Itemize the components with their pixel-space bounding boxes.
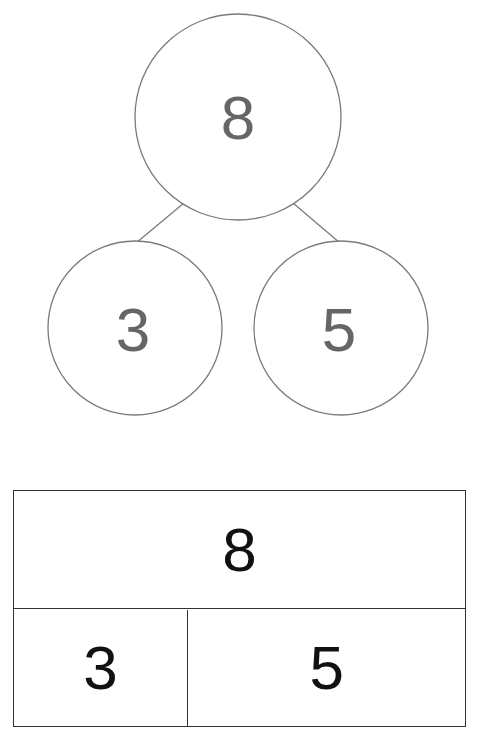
bond-part-circle-right: 5 [254, 241, 428, 415]
bond-part-circle-left: 3 [48, 241, 222, 415]
bond-part-value-right: 5 [322, 295, 356, 364]
bond-whole-circle: 8 [135, 14, 341, 220]
bar-whole-cell: 8 [14, 491, 465, 609]
bond-part-value-left: 3 [116, 295, 150, 364]
bar-part-value-right: 5 [310, 637, 344, 699]
bond-whole-value: 8 [221, 83, 255, 152]
number-bond: 8 3 5 [0, 0, 487, 440]
bar-part-cell-left: 3 [14, 610, 188, 727]
bond-connector-right [293, 203, 340, 243]
bond-connector-left [136, 203, 184, 243]
bar-part-value-left: 3 [83, 637, 117, 699]
bar-whole-value: 8 [222, 519, 256, 581]
bar-part-cell-right: 5 [189, 610, 466, 727]
bar-model: 8 3 5 [13, 490, 466, 727]
